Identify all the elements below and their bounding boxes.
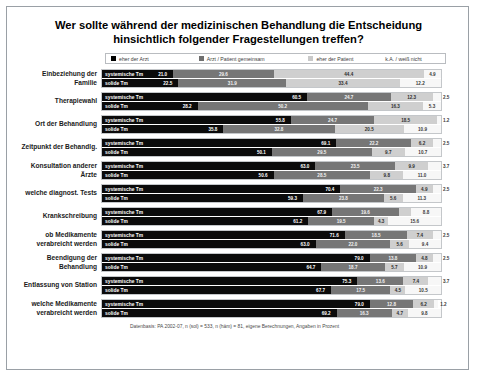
bar-segment[interactable]: 50.2	[198, 102, 368, 110]
bar-segment[interactable]: 9.9	[395, 162, 429, 170]
stacked-bar-row[interactable]: systemische Tm60.524.712.32.5	[102, 93, 441, 101]
bar-segment[interactable]: 24.7	[307, 93, 391, 101]
bar-segment[interactable]: 5.6	[384, 194, 403, 202]
bar-segment[interactable]: systemische Tm69.1	[102, 139, 336, 147]
stacked-bar-row[interactable]: solide Tm69.216.34.79.8	[102, 309, 441, 317]
bar-segment[interactable]: 7.4	[403, 277, 428, 285]
bar-segment[interactable]: 32.8	[223, 125, 334, 133]
bar-segment[interactable]: 29.6	[173, 70, 273, 78]
bar-segment[interactable]: 22.3	[340, 185, 416, 193]
bar-segment[interactable]: 23.8	[303, 194, 384, 202]
stacked-bar-row[interactable]: solide Tm59.323.85.611.3	[102, 194, 441, 202]
bar-segment[interactable]: 1.2	[434, 300, 438, 308]
bar-segment[interactable]: 13.8	[370, 254, 417, 262]
stacked-bar-row[interactable]: systemische Tm79.013.84.82.5	[102, 254, 441, 262]
bar-segment[interactable]: systemische Tm79.0	[102, 300, 370, 308]
bar-segment[interactable]: 4.3	[374, 217, 388, 225]
stacked-bar-row[interactable]: systemische Tm70.422.34.92.5	[102, 185, 441, 193]
bar-segment[interactable]: 12.2	[400, 79, 441, 87]
stacked-bar-row[interactable]: solide Tm22.531.933.412.2	[102, 79, 441, 87]
bar-segment[interactable]: 19.6	[332, 208, 398, 216]
stacked-bar-row[interactable]: solide Tm63.022.05.69.4	[102, 240, 441, 248]
bar-segment[interactable]: 1.2	[437, 116, 441, 124]
stacked-bar-row[interactable]: solide Tm50.129.59.710.7	[102, 148, 441, 156]
bar-segment[interactable]: 24.7	[291, 116, 375, 124]
bar-segment[interactable]: 17.5	[331, 286, 390, 294]
stacked-bar-row[interactable]: solide Tm35.832.820.510.9	[102, 125, 441, 133]
bar-segment[interactable]: systemische Tm71.6	[102, 231, 345, 239]
bar-segment[interactable]: 2.5	[433, 231, 441, 239]
bar-segment[interactable]: 44.4	[274, 70, 425, 78]
bar-segment[interactable]: 3.7	[399, 208, 412, 216]
bar-segment[interactable]: 10.9	[404, 263, 441, 271]
bar-segment[interactable]: systemische Tm79.0	[102, 254, 370, 262]
stacked-bar-row[interactable]: systemische Tm55.824.718.51.2	[102, 116, 441, 124]
bar-segment[interactable]: 18.5	[374, 116, 437, 124]
bar-segment[interactable]: 10.5	[405, 286, 441, 294]
bar-segment[interactable]: 15.6	[388, 217, 441, 225]
bar-segment[interactable]: 3.7	[428, 277, 441, 285]
bar-segment[interactable]: 22.0	[316, 240, 391, 248]
bar-segment[interactable]: 4.5	[390, 286, 405, 294]
bar-segment[interactable]: systemische Tm63.0	[102, 162, 315, 170]
bar-segment[interactable]: 5.6	[390, 240, 409, 248]
bar-segment[interactable]: solide Tm35.8	[102, 125, 223, 133]
bar-segment[interactable]: 20.5	[335, 125, 404, 133]
bar-segment[interactable]: 12.8	[370, 300, 413, 308]
bar-segment[interactable]: systemische Tm75.3	[102, 277, 357, 285]
bar-segment[interactable]: solide Tm59.3	[102, 194, 303, 202]
bar-segment[interactable]: 18.5	[345, 231, 408, 239]
bar-segment[interactable]: solide Tm63.0	[102, 240, 316, 248]
bar-segment[interactable]: 6.2	[413, 300, 434, 308]
bar-segment[interactable]: systemische Tm67.9	[102, 208, 332, 216]
bar-segment[interactable]: 9.7	[372, 148, 405, 156]
bar-segment[interactable]: 4.8	[416, 254, 432, 262]
bar-segment[interactable]: 7.4	[407, 231, 432, 239]
stacked-bar-row[interactable]: systemische Tm75.313.67.43.7	[102, 277, 441, 285]
bar-segment[interactable]: systemische Tm70.4	[102, 185, 340, 193]
stacked-bar-row[interactable]: systemische Tm71.618.57.42.5	[102, 231, 441, 239]
stacked-bar-row[interactable]: systemische Tm63.023.59.93.7	[102, 162, 441, 170]
bar-segment[interactable]: solide Tm61.2	[102, 217, 308, 225]
bar-segment[interactable]: solide Tm22.5	[102, 79, 178, 87]
stacked-bar-row[interactable]: systemische Tm67.919.63.78.8	[102, 208, 441, 216]
bar-segment[interactable]: 9.8	[370, 171, 403, 179]
bar-segment[interactable]: 8.8	[411, 208, 441, 216]
bar-segment[interactable]: solide Tm67.7	[102, 286, 331, 294]
bar-segment[interactable]: 9.8	[408, 309, 441, 317]
stacked-bar-row[interactable]: systemische Tm79.012.86.21.2	[102, 300, 441, 308]
bar-segment[interactable]: solide Tm28.2	[102, 102, 198, 110]
stacked-bar-row[interactable]: systemische Tm69.122.26.22.5	[102, 139, 441, 147]
bar-segment[interactable]: 18.7	[321, 263, 384, 271]
bar-segment[interactable]: 2.5	[433, 139, 441, 147]
bar-segment[interactable]: 19.5	[308, 217, 374, 225]
bar-segment[interactable]: 31.9	[178, 79, 286, 87]
bar-segment[interactable]: 6.2	[411, 139, 432, 147]
bar-segment[interactable]: 16.3	[337, 309, 392, 317]
bar-segment[interactable]: systemische Tm60.5	[102, 93, 307, 101]
stacked-bar-row[interactable]: solide Tm67.717.54.510.5	[102, 286, 441, 294]
bar-segment[interactable]: systemische Tm55.8	[102, 116, 291, 124]
bar-segment[interactable]: 29.5	[272, 148, 372, 156]
bar-segment[interactable]: 11.3	[403, 194, 441, 202]
stacked-bar-row[interactable]: solide Tm28.250.216.35.3	[102, 102, 441, 110]
stacked-bar-row[interactable]: solide Tm64.718.75.710.9	[102, 263, 441, 271]
stacked-bar-row[interactable]: solide Tm61.219.54.315.6	[102, 217, 441, 225]
bar-segment[interactable]: 4.9	[416, 185, 433, 193]
bar-segment[interactable]: 33.4	[286, 79, 399, 87]
bar-segment[interactable]: 23.5	[315, 162, 395, 170]
bar-segment[interactable]: 12.3	[391, 93, 433, 101]
stacked-bar-row[interactable]: solide Tm50.628.59.811.0	[102, 171, 441, 179]
bar-segment[interactable]: 13.6	[357, 277, 403, 285]
bar-segment[interactable]: 10.7	[405, 148, 441, 156]
bar-segment[interactable]: 10.9	[404, 125, 441, 133]
bar-segment[interactable]: 3.7	[428, 162, 441, 170]
bar-segment[interactable]: 2.5	[433, 185, 441, 193]
bar-segment[interactable]: solide Tm69.2	[102, 309, 337, 317]
bar-segment[interactable]: solide Tm50.6	[102, 171, 274, 179]
bar-segment[interactable]: 4.9	[424, 70, 441, 78]
bar-segment[interactable]: 11.0	[403, 171, 440, 179]
bar-segment[interactable]: systemische Tm21.0	[102, 70, 173, 78]
bar-segment[interactable]: 5.7	[385, 263, 404, 271]
bar-segment[interactable]: 2.5	[433, 254, 441, 262]
